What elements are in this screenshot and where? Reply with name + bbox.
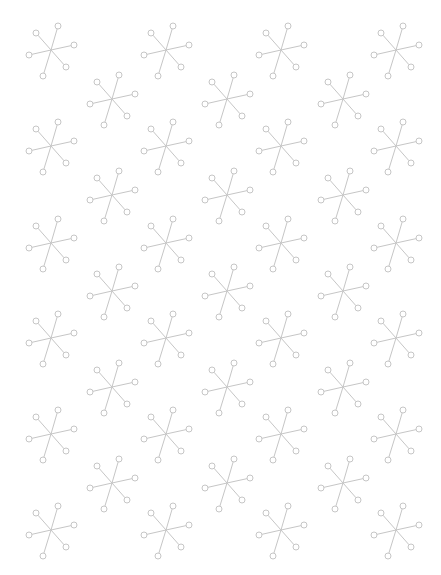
star-icon (87, 360, 138, 416)
star-icon (141, 119, 192, 175)
star-icon (256, 23, 307, 79)
star-icon (87, 168, 138, 224)
star-icon (256, 407, 307, 463)
star-icon (256, 503, 307, 559)
star-icon (318, 264, 369, 320)
star-icon (26, 119, 77, 175)
star-icon (256, 119, 307, 175)
star-icon (141, 23, 192, 79)
star-icon (26, 407, 77, 463)
star-pattern-background (0, 0, 441, 575)
star-icon (371, 407, 422, 463)
star-icon (371, 503, 422, 559)
star-icon (318, 72, 369, 128)
star-icon (87, 264, 138, 320)
star-icon (87, 72, 138, 128)
star-icon (318, 456, 369, 512)
star-icon (256, 311, 307, 367)
star-icon (371, 216, 422, 272)
star-icon (318, 360, 369, 416)
star-icon (202, 456, 253, 512)
star-icon (141, 311, 192, 367)
star-icon (141, 503, 192, 559)
star-icon (202, 264, 253, 320)
star-icon (371, 119, 422, 175)
star-icon (256, 216, 307, 272)
star-icon (26, 23, 77, 79)
star-icon (26, 216, 77, 272)
star-icon (202, 360, 253, 416)
star-icon (202, 168, 253, 224)
star-icon (202, 72, 253, 128)
star-icon (141, 216, 192, 272)
star-icon (26, 503, 77, 559)
star-icon (318, 168, 369, 224)
star-icon (371, 311, 422, 367)
star-icon (141, 407, 192, 463)
star-icon (26, 311, 77, 367)
star-icon (371, 23, 422, 79)
star-icon (87, 456, 138, 512)
